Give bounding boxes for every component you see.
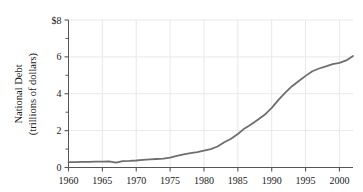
x-axis-ticks: 196019651970197519801985199019952000 <box>59 168 350 186</box>
y-tick-label: 2 <box>57 125 62 136</box>
x-tick-label: 2000 <box>329 175 349 186</box>
y-tick-label: 0 <box>57 162 62 173</box>
x-tick-label: 1965 <box>92 175 112 186</box>
x-tick-label: 1980 <box>194 175 214 186</box>
chart-background <box>0 0 363 192</box>
national-debt-line-chart: 0246$8 196019651970197519801985199019952… <box>0 0 363 192</box>
x-tick-label: 1990 <box>262 175 282 186</box>
x-tick-label: 1960 <box>59 175 79 186</box>
y-axis-title-line2: (trillions of dollars) <box>27 52 39 135</box>
chart-figure: 0246$8 196019651970197519801985199019952… <box>0 0 363 192</box>
x-tick-label: 1975 <box>160 175 180 186</box>
y-axis-title-line1: National Debt <box>13 64 24 123</box>
y-tick-label: $8 <box>52 15 62 26</box>
x-tick-label: 1970 <box>126 175 146 186</box>
x-tick-label: 1995 <box>296 175 316 186</box>
x-tick-label: 1985 <box>228 175 248 186</box>
y-tick-label: 4 <box>57 88 62 99</box>
y-tick-label: 6 <box>57 51 62 62</box>
